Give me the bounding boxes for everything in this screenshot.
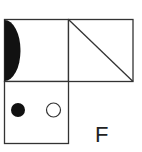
figure-label: F (95, 122, 108, 147)
filled-circle (11, 103, 25, 117)
cube-net-figure: F (0, 0, 142, 152)
hollow-circle (47, 103, 61, 117)
